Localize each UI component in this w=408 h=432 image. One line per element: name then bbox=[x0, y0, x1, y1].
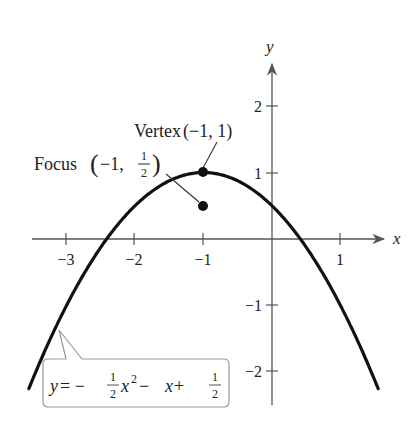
y-tick-label: 2 bbox=[254, 98, 262, 115]
x-axis-label: x bbox=[392, 229, 401, 248]
svg-text:2: 2 bbox=[141, 166, 147, 180]
parabola-diagram: x y −3 −2 −1 1 2 1 −1 −2 bbox=[0, 0, 408, 432]
y-tick-label: −2 bbox=[245, 363, 262, 380]
svg-text:1: 1 bbox=[110, 370, 116, 384]
vertex-leader-line bbox=[203, 142, 217, 168]
svg-text:2: 2 bbox=[212, 387, 218, 401]
svg-text:y: y bbox=[48, 376, 58, 396]
y-tick-label: 1 bbox=[254, 165, 262, 182]
vertex-label: Vertex(−1, 1) bbox=[134, 121, 232, 142]
focus-point bbox=[198, 201, 208, 211]
svg-text:(: ( bbox=[90, 149, 99, 178]
x-tick-label: −3 bbox=[57, 251, 74, 268]
focus-label: Focus ( −1, 1 2 ) bbox=[34, 149, 161, 180]
graph-canvas: x y −3 −2 −1 1 2 1 −1 −2 bbox=[0, 0, 408, 432]
svg-text:2: 2 bbox=[131, 372, 137, 386]
x-tick-label: −1 bbox=[194, 251, 211, 268]
svg-text:1: 1 bbox=[141, 149, 147, 163]
y-axis-label: y bbox=[264, 37, 274, 56]
x-tick-label: −2 bbox=[125, 251, 142, 268]
x-tick-label: 1 bbox=[336, 251, 344, 268]
svg-text:x: x bbox=[120, 376, 129, 396]
svg-text:x: x bbox=[164, 376, 173, 396]
svg-text:): ) bbox=[152, 149, 161, 178]
svg-text:−: − bbox=[139, 376, 149, 396]
equation-callout: y = − 1 2 x 2 − x + 1 2 bbox=[43, 330, 229, 407]
svg-text:−1,: −1, bbox=[100, 154, 124, 174]
svg-text:+: + bbox=[174, 376, 184, 396]
svg-text:= −: = − bbox=[60, 376, 85, 396]
focus-leader-line bbox=[166, 174, 199, 202]
svg-text:1: 1 bbox=[212, 370, 218, 384]
vertex-point bbox=[198, 167, 208, 177]
svg-text:2: 2 bbox=[110, 387, 116, 401]
y-tick-label: −1 bbox=[245, 297, 262, 314]
svg-text:Focus: Focus bbox=[34, 154, 77, 174]
